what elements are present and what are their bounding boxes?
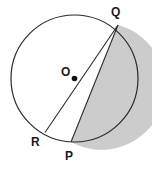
point-label-p: P xyxy=(65,150,73,162)
point-label-q: Q xyxy=(111,6,120,18)
shaded-segment-region xyxy=(71,25,152,150)
center-point-dot xyxy=(72,76,78,82)
circle-diagram-svg xyxy=(0,0,152,169)
circle-diagram-figure: Q O P R xyxy=(0,0,152,169)
point-label-o: O xyxy=(61,66,70,78)
point-label-r: R xyxy=(31,136,40,148)
